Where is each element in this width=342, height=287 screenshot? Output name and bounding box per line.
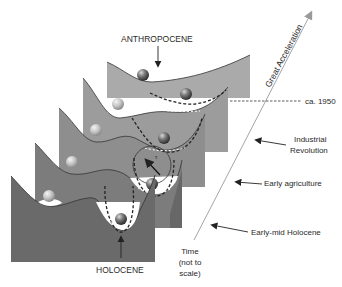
state-ball bbox=[66, 156, 78, 168]
early-mid-holocene-label: Early-mid Holocene bbox=[251, 228, 321, 237]
state-ball bbox=[43, 190, 55, 202]
great-acceleration-label: Great Acceleration bbox=[263, 22, 305, 89]
holocene-label: HOLOCENE bbox=[96, 265, 144, 275]
early-agriculture-label: Early agriculture bbox=[264, 179, 322, 188]
state-ball bbox=[112, 98, 124, 110]
early-mid-holocene-pointer bbox=[212, 225, 248, 232]
industrial-label-2: Revolution bbox=[290, 146, 328, 155]
state-ball bbox=[158, 132, 170, 144]
state-ball bbox=[90, 124, 102, 136]
marker-1950-label: ca. 1950 bbox=[305, 97, 336, 106]
panel-anthropocene bbox=[107, 55, 250, 98]
early-agriculture-pointer bbox=[236, 182, 262, 184]
state-ball bbox=[180, 88, 192, 100]
state-ball bbox=[115, 213, 127, 225]
industrial-label-1: Industrial bbox=[294, 135, 327, 144]
industrial-pointer bbox=[256, 140, 286, 145]
anthropocene-label: ANTHROPOCENE bbox=[121, 34, 193, 44]
time-label-1: Time bbox=[181, 247, 199, 256]
time-label-3: scale) bbox=[179, 269, 201, 278]
time-label-2: (not to bbox=[179, 258, 202, 267]
state-ball bbox=[137, 69, 149, 81]
stability-landscape-diagram: τ ANTHROPOCENE HOLOCENE Great Accelerati… bbox=[0, 0, 342, 287]
